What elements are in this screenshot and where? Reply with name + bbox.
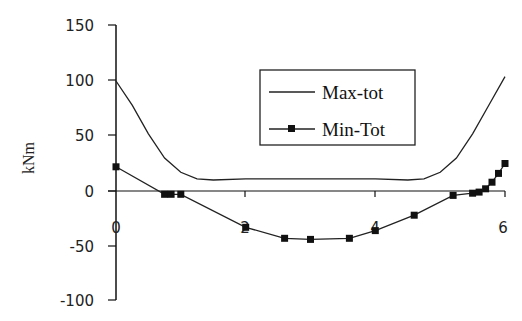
min-tot-marker [502, 160, 509, 167]
legend-max-label: Max-tot [322, 82, 384, 103]
y-axis-title: kNm [20, 141, 37, 174]
min-tot-marker [168, 191, 175, 198]
min-tot-marker [177, 191, 184, 198]
min-tot-marker [307, 236, 314, 243]
min-tot-marker [242, 224, 249, 231]
x-tick-6: 6 [498, 219, 508, 237]
min-tot-marker [482, 185, 489, 192]
moment-chart: 150 100 50 0 -50 -100 0 2 4 6 kNm Max-to… [0, 0, 522, 321]
y-tick-minus-50: -50 [70, 238, 95, 256]
y-tick-100: 100 [65, 72, 94, 90]
min-tot-marker [469, 190, 476, 197]
min-tot-marker [476, 189, 483, 196]
min-tot-marker [161, 191, 168, 198]
min-tot-marker [450, 192, 457, 199]
min-tot-line [116, 164, 505, 240]
legend-min-label: Min-Tot [322, 119, 386, 140]
min-tot-markers [113, 160, 509, 243]
min-tot-marker [372, 227, 379, 234]
x-tick-0: 0 [111, 219, 121, 237]
min-tot-marker [113, 163, 120, 170]
min-tot-marker [495, 170, 502, 177]
min-tot-marker [489, 179, 496, 186]
y-tick-0: 0 [84, 183, 94, 201]
min-tot-marker [281, 235, 288, 242]
y-ticks [108, 25, 116, 300]
legend: Max-tot Min-Tot [260, 70, 415, 145]
legend-min-marker-icon [288, 125, 295, 132]
y-tick-minus-100: -100 [60, 292, 94, 310]
min-tot-marker [346, 235, 353, 242]
y-tick-50: 50 [75, 127, 94, 145]
y-tick-150: 150 [65, 17, 94, 35]
min-tot-marker [411, 212, 418, 219]
